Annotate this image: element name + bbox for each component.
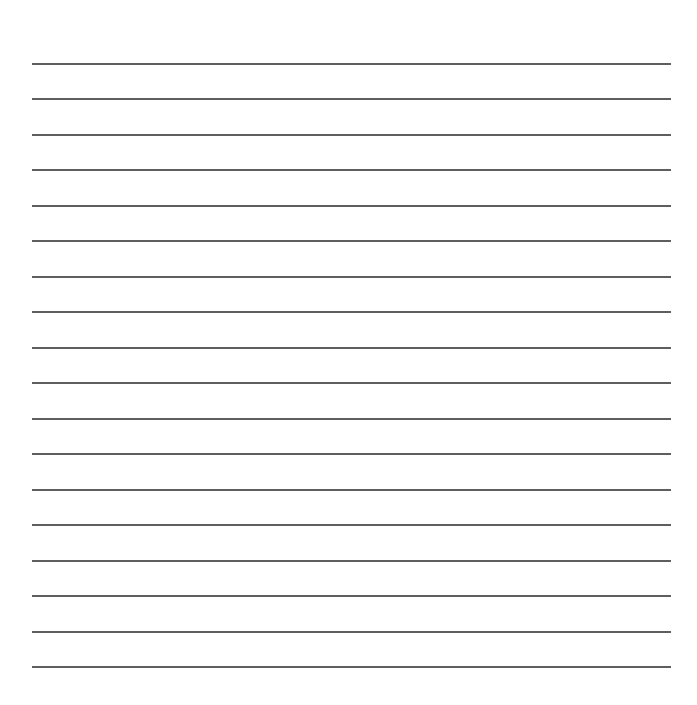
ruled-line xyxy=(32,276,671,278)
ruled-line xyxy=(32,631,671,633)
ruled-line xyxy=(32,347,671,349)
ruled-line xyxy=(32,666,671,668)
lined-paper-page xyxy=(0,0,697,705)
ruled-line xyxy=(32,98,671,100)
ruled-line xyxy=(32,169,671,171)
ruled-line xyxy=(32,524,671,526)
ruled-line xyxy=(32,134,671,136)
ruled-line xyxy=(32,311,671,313)
ruled-line xyxy=(32,63,671,65)
ruled-line xyxy=(32,453,671,455)
ruled-line xyxy=(32,489,671,491)
ruled-line xyxy=(32,240,671,242)
ruled-line xyxy=(32,382,671,384)
ruled-line xyxy=(32,595,671,597)
ruled-line xyxy=(32,205,671,207)
ruled-line xyxy=(32,560,671,562)
ruled-line xyxy=(32,418,671,420)
